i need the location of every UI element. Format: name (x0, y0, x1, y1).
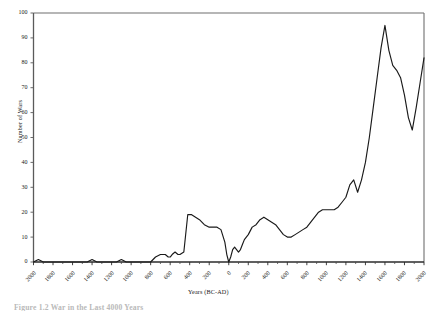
data-series-line (34, 25, 425, 262)
y-tick-label: 50 (10, 134, 28, 140)
y-tick-label: 40 (10, 159, 28, 165)
war-frequency-line-chart (0, 0, 436, 311)
figure-caption: Figure 1.2 War in the Last 4000 Years (14, 303, 434, 311)
y-tick-label: 100 (10, 9, 28, 15)
y-tick-label: 10 (10, 234, 28, 240)
y-tick-label: 30 (10, 184, 28, 190)
figure-container: Number of Wars Years (BC-AD) 01020304050… (0, 0, 436, 311)
y-tick-label: 0 (10, 258, 28, 264)
y-tick-label: 20 (10, 209, 28, 215)
y-tick-label: 90 (10, 34, 28, 40)
y-tick-label: 60 (10, 109, 28, 115)
plot-frame (34, 13, 425, 262)
y-tick-label: 70 (10, 84, 28, 90)
y-tick-label: 80 (10, 59, 28, 65)
x-axis-title: Years (BC-AD) (188, 288, 229, 295)
